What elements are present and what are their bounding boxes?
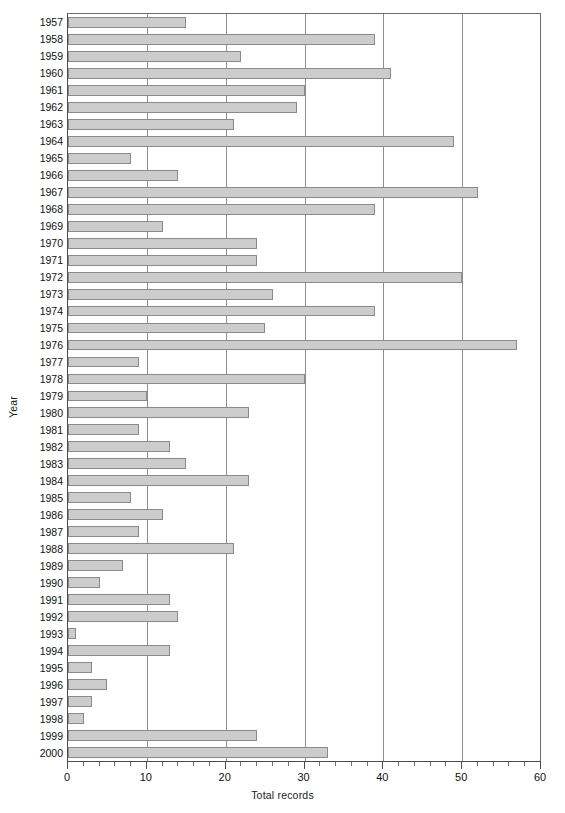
bar-1961 — [68, 85, 305, 96]
x-tick-6 — [114, 762, 115, 766]
bar-row — [68, 150, 541, 167]
bar-chart: Year 19571958195919601961196219631964196… — [0, 0, 565, 813]
bar-1987 — [68, 526, 139, 537]
y-tick-label-1959: 1959 — [19, 50, 63, 62]
x-tick-46 — [430, 762, 431, 766]
bar-row — [68, 472, 541, 489]
x-tick-label-50: 50 — [455, 771, 467, 783]
bar-row — [68, 574, 541, 591]
y-tick-label-1967: 1967 — [19, 186, 63, 198]
bar-row — [68, 286, 541, 303]
bar-row — [68, 591, 541, 608]
y-tick-label-1960: 1960 — [19, 67, 63, 79]
y-tick-label-1957: 1957 — [19, 16, 63, 28]
bar-1978 — [68, 374, 305, 385]
y-tick-label-1990: 1990 — [19, 577, 63, 589]
bar-1969 — [68, 221, 163, 232]
bar-row — [68, 744, 541, 761]
bar-1971 — [68, 255, 257, 266]
x-tick-54 — [493, 762, 494, 766]
y-tick-label-1963: 1963 — [19, 118, 63, 130]
bar-1970 — [68, 238, 257, 249]
y-tick-label-1999: 1999 — [19, 730, 63, 742]
bar-1990 — [68, 577, 100, 588]
bar-1995 — [68, 662, 92, 673]
bar-1965 — [68, 153, 131, 164]
x-tick-24 — [256, 762, 257, 766]
bar-row — [68, 506, 541, 523]
y-tick-label-1978: 1978 — [19, 373, 63, 385]
y-tick-label-1974: 1974 — [19, 305, 63, 317]
x-tick-56 — [508, 762, 509, 766]
x-tick-20 — [225, 762, 226, 769]
bar-1960 — [68, 68, 391, 79]
bar-row — [68, 269, 541, 286]
y-tick-label-1984: 1984 — [19, 475, 63, 487]
bar-1982 — [68, 441, 170, 452]
y-tick-label-1977: 1977 — [19, 356, 63, 368]
y-tick-label-1988: 1988 — [19, 543, 63, 555]
bar-1964 — [68, 136, 454, 147]
bar-row — [68, 65, 541, 82]
y-tick-label-1998: 1998 — [19, 713, 63, 725]
bar-1997 — [68, 696, 92, 707]
y-tick-label-1986: 1986 — [19, 509, 63, 521]
bar-row — [68, 303, 541, 320]
bar-row — [68, 218, 541, 235]
y-tick-label-1966: 1966 — [19, 169, 63, 181]
y-tick-label-1991: 1991 — [19, 594, 63, 606]
x-tick-label-40: 40 — [376, 771, 388, 783]
x-tick-44 — [414, 762, 415, 766]
x-tick-label-30: 30 — [297, 771, 309, 783]
bar-row — [68, 99, 541, 116]
y-tick-label-1972: 1972 — [19, 271, 63, 283]
bar-row — [68, 14, 541, 31]
bar-row — [68, 727, 541, 744]
y-tick-label-1989: 1989 — [19, 560, 63, 572]
x-tick-0 — [67, 762, 68, 769]
x-tick-42 — [398, 762, 399, 766]
bar-1998 — [68, 713, 84, 724]
bar-row — [68, 438, 541, 455]
x-tick-60 — [540, 762, 541, 769]
y-tick-label-1993: 1993 — [19, 628, 63, 640]
bar-1992 — [68, 611, 178, 622]
bar-1983 — [68, 458, 186, 469]
bar-row — [68, 371, 541, 388]
bar-1959 — [68, 51, 241, 62]
y-tick-label-1980: 1980 — [19, 407, 63, 419]
y-tick-label-1996: 1996 — [19, 679, 63, 691]
x-tick-16 — [193, 762, 194, 766]
x-tick-26 — [272, 762, 273, 766]
y-tick-label-1995: 1995 — [19, 662, 63, 674]
bar-1980 — [68, 407, 249, 418]
x-tick-38 — [367, 762, 368, 766]
bar-1957 — [68, 17, 186, 28]
y-tick-label-1964: 1964 — [19, 135, 63, 147]
x-tick-58 — [524, 762, 525, 766]
bar-row — [68, 184, 541, 201]
x-tick-label-60: 60 — [534, 771, 546, 783]
y-tick-label-1992: 1992 — [19, 611, 63, 623]
bar-1976 — [68, 340, 517, 351]
bar-1977 — [68, 357, 139, 368]
bar-1967 — [68, 187, 478, 198]
bar-1963 — [68, 119, 234, 130]
y-tick-label-2000: 2000 — [19, 747, 63, 759]
y-tick-label-1997: 1997 — [19, 696, 63, 708]
bar-row — [68, 201, 541, 218]
y-tick-label-1987: 1987 — [19, 526, 63, 538]
x-tick-14 — [177, 762, 178, 766]
x-tick-8 — [130, 762, 131, 766]
bar-1981 — [68, 424, 139, 435]
x-tick-36 — [351, 762, 352, 766]
bar-row — [68, 540, 541, 557]
x-tick-48 — [445, 762, 446, 766]
bar-row — [68, 489, 541, 506]
bar-row — [68, 421, 541, 438]
y-tick-label-1965: 1965 — [19, 152, 63, 164]
y-tick-label-1970: 1970 — [19, 237, 63, 249]
bar-row — [68, 642, 541, 659]
bar-1985 — [68, 492, 131, 503]
y-tick-label-1968: 1968 — [19, 203, 63, 215]
